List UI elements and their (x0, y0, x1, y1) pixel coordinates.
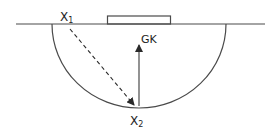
diagram-canvas: X1 GK X2 (0, 0, 275, 133)
dashed-arrow-x1-to-x2 (70, 29, 134, 105)
label-gk: GK (141, 33, 158, 46)
label-x2: X2 (130, 114, 143, 129)
goal-box (108, 16, 171, 24)
label-x1: X1 (60, 10, 73, 25)
